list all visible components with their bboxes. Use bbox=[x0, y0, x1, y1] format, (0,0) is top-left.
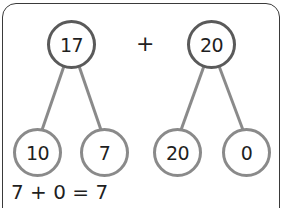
whole-value-left: 17 bbox=[60, 34, 83, 56]
connector-line-right-bond-left bbox=[181, 66, 204, 130]
whole-value-right: 20 bbox=[200, 34, 223, 56]
part-value-right-2: 0 bbox=[241, 142, 253, 164]
part-value-right-1: 20 bbox=[166, 142, 189, 164]
whole-circle-left: 17 bbox=[47, 20, 96, 69]
connector-line-right-bond-right bbox=[219, 66, 243, 130]
part-circle-right-2: 0 bbox=[222, 128, 271, 177]
plus-operator: + bbox=[136, 33, 154, 55]
number-bond-diagram: 17 10 7 + 20 20 0 7 + 0 = 7 bbox=[0, 0, 285, 208]
connector-line-left-bond-left bbox=[42, 66, 64, 130]
part-circle-right-1: 20 bbox=[153, 128, 202, 177]
part-circle-left-1: 10 bbox=[13, 128, 62, 177]
whole-circle-right: 20 bbox=[187, 20, 236, 69]
part-value-left-1: 10 bbox=[26, 142, 49, 164]
equation-text: 7 + 0 = 7 bbox=[11, 182, 108, 202]
part-value-left-2: 7 bbox=[99, 142, 111, 164]
part-circle-left-2: 7 bbox=[80, 128, 129, 177]
connector-line-left-bond-right bbox=[79, 66, 101, 130]
